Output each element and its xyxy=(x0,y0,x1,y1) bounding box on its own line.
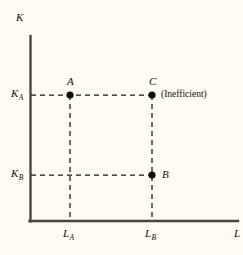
point-c-marker xyxy=(148,91,155,98)
inefficient-annotation: (Inefficient) xyxy=(161,90,207,100)
data-points-group xyxy=(66,91,155,178)
x-tick-label-la: LA xyxy=(63,228,74,239)
x-tick-lb-sub: B xyxy=(151,233,156,242)
y-axis-label: K xyxy=(16,12,23,23)
y-tick-ka-sub: A xyxy=(19,93,24,102)
point-b-label: B xyxy=(162,169,169,180)
y-tick-label-ka: KA xyxy=(11,88,23,99)
guide-lines-group xyxy=(31,95,152,220)
x-tick-label-lb: LB xyxy=(145,228,156,239)
axes-group xyxy=(30,36,239,222)
y-tick-ka-base: K xyxy=(11,87,18,99)
y-tick-label-kb: KB xyxy=(11,168,23,179)
figure-canvas xyxy=(0,0,243,255)
x-axis-label: L xyxy=(234,228,240,239)
x-tick-la-sub: A xyxy=(69,233,74,242)
point-a-marker xyxy=(66,91,73,98)
point-c-label: C xyxy=(149,76,156,87)
point-b-marker xyxy=(148,171,155,178)
y-tick-kb-sub: B xyxy=(19,173,24,182)
point-a-label: A xyxy=(67,76,74,87)
production-isoquant-figure: K L KA KB LA LB A C B (Inefficient) xyxy=(0,0,243,255)
y-tick-kb-base: K xyxy=(11,167,18,179)
